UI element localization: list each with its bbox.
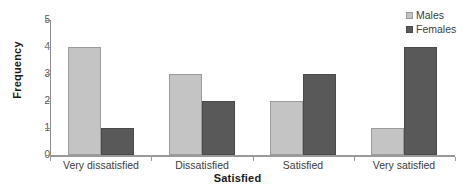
bar-females-0 — [101, 128, 134, 155]
x-axis-title: Satisfied — [0, 172, 475, 184]
y-axis-tick-mark — [45, 128, 50, 129]
chart-legend: Males Females — [406, 9, 475, 37]
bar-chart: 012345 Frequency Very dissatisfiedDissat… — [0, 0, 475, 192]
legend-item-females: Females — [406, 23, 475, 35]
legend-label-males: Males — [416, 10, 444, 21]
bar-females-2 — [303, 74, 336, 155]
legend-label-females: Females — [416, 24, 456, 35]
y-axis-tick-mark — [45, 74, 50, 75]
bar-males-1 — [169, 74, 202, 155]
legend-item-males: Males — [406, 9, 475, 21]
bar-males-2 — [270, 101, 303, 155]
y-axis-tick-mark — [45, 101, 50, 102]
y-axis-title: Frequency — [11, 25, 23, 115]
x-axis-category-label: Very satisfied — [344, 159, 464, 171]
bar-males-0 — [68, 47, 101, 155]
y-axis-tick-mark — [45, 20, 50, 21]
bar-females-3 — [404, 47, 437, 155]
bar-males-3 — [371, 128, 404, 155]
y-axis-line — [50, 20, 51, 156]
bar-females-1 — [202, 101, 235, 155]
y-axis-tick-mark — [45, 47, 50, 48]
legend-swatch-males-icon — [406, 12, 413, 19]
legend-swatch-females-icon — [406, 26, 413, 33]
